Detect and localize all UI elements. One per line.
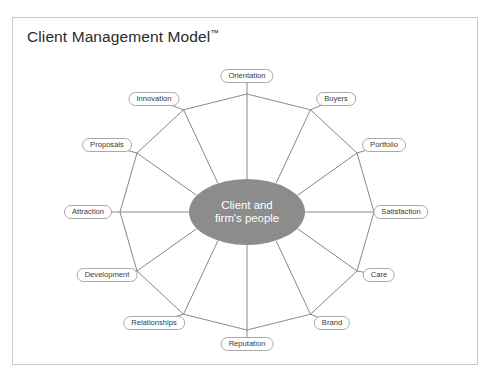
node-label-satisfaction[interactable]: Satisfaction xyxy=(373,205,428,219)
node-label-text: Orientation xyxy=(228,72,265,80)
node-label-text: Buyers xyxy=(324,95,348,103)
node-label-text: Innovation xyxy=(136,95,171,103)
node-label-brand[interactable]: Brand xyxy=(314,316,350,330)
node-label-text: Development xyxy=(85,271,130,279)
spoke-line-7 xyxy=(184,241,219,315)
node-label-text: Attraction xyxy=(72,208,104,216)
node-label-attraction[interactable]: Attraction xyxy=(64,205,112,219)
node-label-text: Care xyxy=(371,271,387,279)
spoke-line-11 xyxy=(184,110,219,184)
spoke-line-1 xyxy=(276,110,311,184)
spoke-line-4 xyxy=(297,229,357,272)
radial-wheel-graphic xyxy=(0,0,494,381)
node-label-text: Relationships xyxy=(131,319,177,327)
node-label-text: Satisfaction xyxy=(381,208,420,216)
node-label-text: Portfolio xyxy=(370,141,398,149)
node-label-buyers[interactable]: Buyers xyxy=(316,92,356,106)
node-label-innovation[interactable]: Innovation xyxy=(128,92,179,106)
node-label-development[interactable]: Development xyxy=(77,268,138,282)
node-label-text: Brand xyxy=(322,319,342,327)
spoke-line-2 xyxy=(297,153,357,196)
diagram-page: Client Management Model™ Client and firm… xyxy=(0,0,494,381)
spoke-line-5 xyxy=(276,241,311,315)
node-label-orientation[interactable]: Orientation xyxy=(220,69,273,83)
node-label-text: Proposals xyxy=(90,141,124,149)
node-label-portfolio[interactable]: Portfolio xyxy=(362,138,406,152)
node-label-text: Reputation xyxy=(229,340,266,348)
spoke-line-8 xyxy=(137,229,197,272)
node-label-care[interactable]: Care xyxy=(363,268,395,282)
hub-ellipse xyxy=(189,179,305,245)
node-label-proposals[interactable]: Proposals xyxy=(82,138,132,152)
spoke-line-10 xyxy=(137,153,197,196)
node-label-reputation[interactable]: Reputation xyxy=(221,337,274,351)
node-label-relationships[interactable]: Relationships xyxy=(123,316,185,330)
